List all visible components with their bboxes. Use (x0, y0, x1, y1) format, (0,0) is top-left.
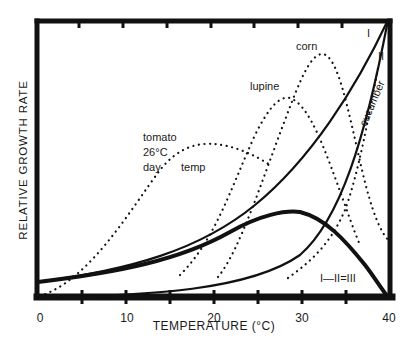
label-lupine: lupine (250, 80, 279, 92)
label-curve-II: II (378, 50, 384, 62)
label-curve-III: I—II=III (320, 272, 356, 284)
x-axis-title: TEMPERATURE (°C) (153, 319, 276, 333)
tick-0: 0 (37, 311, 44, 325)
tick-10: 10 (120, 311, 134, 325)
curve-II (38, 20, 388, 297)
y-axis-title: RELATIVE GROWTH RATE (17, 80, 29, 239)
label-curve-I: I (367, 27, 370, 39)
label-tomato-3: day (143, 161, 161, 173)
plot-frame (37, 21, 392, 297)
label-tomato-1: tomato (143, 131, 177, 143)
label-corn: corn (296, 40, 317, 52)
corn-curve (218, 54, 390, 277)
label-tomato-4: temp (181, 161, 205, 173)
label-tomato-2: 26°C (143, 146, 168, 158)
lupine-curve (180, 98, 360, 275)
tick-30: 30 (295, 311, 309, 325)
label-cucumber: cucumber (357, 78, 387, 127)
curve-III (38, 212, 388, 297)
tick-40: 40 (382, 311, 396, 325)
growth-rate-chart: 0 10 20 30 40 TEMPERATURE (°C) RELATIVE … (0, 0, 412, 349)
